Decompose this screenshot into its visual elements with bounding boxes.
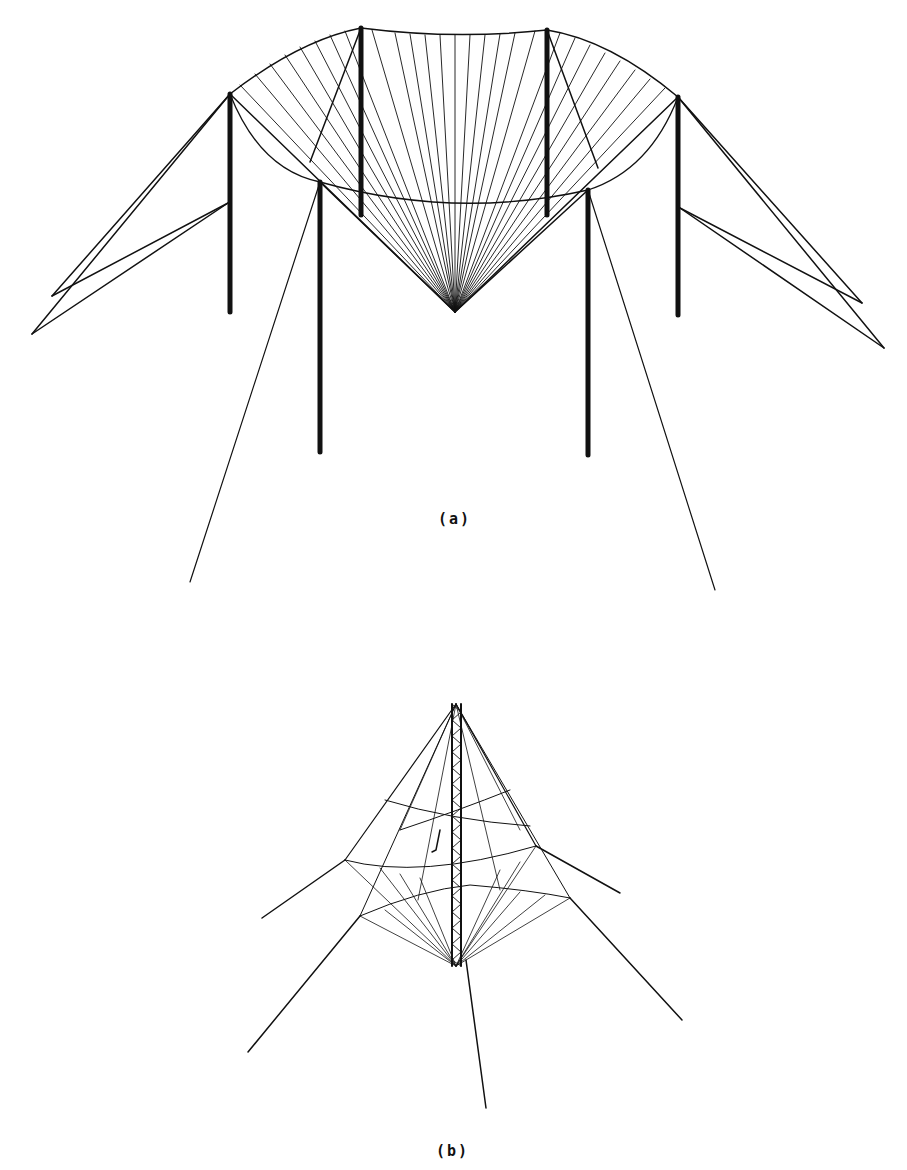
panel-label-b: (b) bbox=[436, 1142, 469, 1160]
panel-label-a: (a) bbox=[438, 510, 471, 528]
